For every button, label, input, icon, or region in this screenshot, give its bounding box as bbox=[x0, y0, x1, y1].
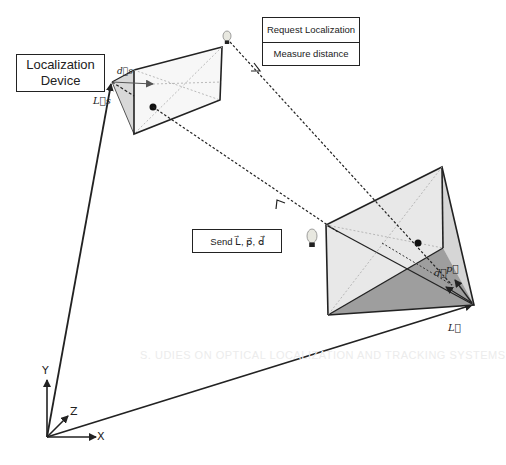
send-label: Send L⃗, p⃗, d⃗ bbox=[210, 236, 263, 247]
measure-distance-label: Measure distance bbox=[263, 42, 359, 66]
lightbulb-icon bbox=[223, 31, 231, 44]
label-large-d: d⃗ bbox=[434, 267, 446, 278]
message-stack: Request Localization Measure distance bbox=[262, 17, 360, 66]
label-small-L: L⃗s bbox=[93, 95, 111, 106]
large-prism bbox=[326, 167, 474, 315]
background-bleed-heading: S. UDIES ON OPTICAL LOCALIZATION AND TRA… bbox=[140, 349, 506, 361]
send-vectors-box: Send L⃗, p⃗, d⃗ bbox=[192, 229, 282, 253]
small-prism bbox=[112, 47, 222, 134]
localization-device-box: Localization Device bbox=[16, 54, 105, 92]
request-localization-label: Request Localization bbox=[263, 18, 359, 42]
axis-label-z: Z bbox=[70, 405, 78, 418]
label-large-L: L⃗ bbox=[448, 322, 461, 333]
vector-L-small bbox=[47, 84, 111, 437]
axis-label-y: Y bbox=[42, 364, 49, 377]
device-label-line2: Device bbox=[26, 73, 95, 89]
device-label-line1: Localization bbox=[26, 57, 95, 73]
vector-L-large bbox=[47, 305, 472, 437]
label-large-p: p⃗ bbox=[446, 263, 458, 274]
send-path bbox=[153, 107, 338, 232]
axis-label-x: X bbox=[97, 430, 105, 443]
label-small-d: d⃗s bbox=[117, 66, 133, 76]
lightbulb-icon bbox=[307, 229, 317, 247]
